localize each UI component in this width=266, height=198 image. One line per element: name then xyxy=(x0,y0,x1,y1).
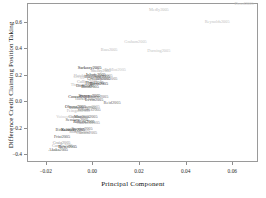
x-axis-title: Principal Component xyxy=(0,180,266,188)
data-point-label: Clinton2005 xyxy=(76,130,97,134)
data-point-label: Bass2005 xyxy=(101,48,118,52)
x-tick-mark xyxy=(186,162,187,165)
x-tick-label: 0.00 xyxy=(88,168,97,174)
data-point-label: Bond2005 xyxy=(81,85,98,89)
y-tick-label: 0.6 xyxy=(15,19,22,25)
scatter-plot-figure: Dowd2005Medly2005Reynolds2005Graham2005B… xyxy=(0,0,266,198)
data-point-label: Akaka2005 xyxy=(49,148,68,152)
x-tick-mark xyxy=(46,162,47,165)
y-tick-label: 0.0 xyxy=(15,98,22,104)
x-tick-label: −0.02 xyxy=(39,168,51,174)
x-tick-label: 0.02 xyxy=(134,168,143,174)
data-point-label: Reynolds2005 xyxy=(205,19,230,23)
x-tick-label: 0.04 xyxy=(181,168,190,174)
plot-area: Dowd2005Medly2005Reynolds2005Graham2005B… xyxy=(27,3,258,162)
data-point-label: Reid2005 xyxy=(104,100,121,104)
x-tick-mark xyxy=(92,162,93,165)
data-point-label: Durning2005 xyxy=(147,49,170,53)
x-tick-mark xyxy=(139,162,140,165)
y-axis-title: Difference Credit Claiming Position Taki… xyxy=(7,5,15,165)
data-point-label: Frist2005 xyxy=(54,134,70,138)
y-tick-mark xyxy=(24,48,27,49)
data-point-label: Graham2005 xyxy=(124,40,146,44)
x-tick-label: 0.06 xyxy=(228,168,237,174)
data-point-label: Dowd2005 xyxy=(234,2,253,6)
data-point-label: Schumer2005 xyxy=(77,108,100,112)
y-tick-mark xyxy=(24,22,27,23)
y-tick-label: 0.2 xyxy=(15,72,22,78)
y-tick-mark xyxy=(24,128,27,129)
y-tick-mark xyxy=(24,101,27,102)
y-tick-label: 0.4 xyxy=(15,45,22,51)
y-tick-mark xyxy=(24,75,27,76)
data-point-label: Levin2005 xyxy=(85,98,103,102)
y-tick-mark xyxy=(24,154,27,155)
x-tick-mark xyxy=(232,162,233,165)
data-point-label: Medly2005 xyxy=(149,7,169,11)
data-point-label: Cantwell2005 xyxy=(76,121,100,125)
